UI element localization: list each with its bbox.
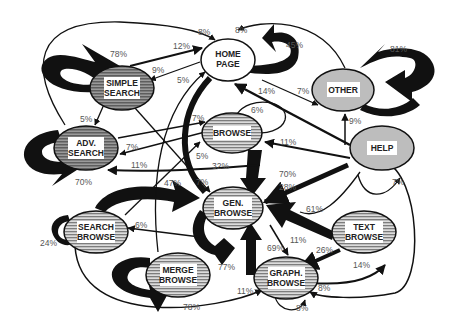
node-merge-browse[interactable]: MERGE BROWSE — [146, 253, 210, 297]
edge-simple-search-to-home — [130, 48, 202, 66]
node-label: BROWSE — [213, 128, 252, 138]
node-adv-search[interactable]: ADV. SEARCH — [54, 126, 118, 170]
edge-label: 6% — [135, 220, 148, 230]
node-label: SEARCH — [78, 222, 114, 232]
edge-label: 24% — [40, 238, 57, 248]
node-label: SEARCH — [104, 88, 140, 98]
edge-search-browse-to-browse — [125, 142, 200, 215]
node-help[interactable]: HELP — [350, 126, 414, 170]
node-label: GRAPH. — [269, 268, 302, 278]
edge-help-to-gen-browse — [265, 165, 348, 202]
edge-label: 26% — [316, 245, 333, 255]
node-browse[interactable]: BROWSE — [202, 113, 262, 153]
edge-label: 7% — [297, 86, 310, 96]
node-label: OTHER — [328, 85, 358, 95]
node-label: BROWSE — [267, 278, 306, 288]
node-other[interactable]: OTHER — [312, 69, 374, 111]
edge-label: 5% — [80, 114, 93, 124]
edge-label: 11% — [131, 160, 148, 170]
node-label: GEN. — [223, 198, 244, 208]
edge-label: 78% — [183, 302, 200, 312]
node-simple-search[interactable]: SIMPLE SEARCH — [90, 66, 154, 110]
edge-label: 8% — [235, 25, 248, 35]
edge-label: 5% — [196, 151, 209, 161]
edge-label: 61% — [306, 204, 323, 214]
edge-label: 9% — [152, 65, 165, 75]
edge-label: 8% — [296, 303, 309, 313]
node-text-browse[interactable]: TEXT BROWSE — [332, 211, 396, 253]
edge-label: 14% — [353, 260, 370, 270]
edge-label: 47% — [164, 178, 181, 188]
edge-label: 8% — [318, 283, 331, 293]
edge-label: 9% — [349, 116, 362, 126]
edge-label: 5% — [177, 75, 190, 85]
edge-label: 28% — [279, 182, 296, 192]
node-label: TEXT — [353, 222, 376, 232]
edge-label: 7% — [126, 142, 139, 152]
node-label: SEARCH — [68, 148, 104, 158]
edge-label: 7% — [196, 177, 209, 187]
node-label: ADV. — [76, 138, 96, 148]
edge-label: 11% — [280, 137, 297, 147]
node-search-browse[interactable]: SEARCH BROWSE — [64, 211, 128, 253]
edge-label: 32% — [212, 161, 229, 171]
node-label: SIMPLE — [106, 78, 138, 88]
edge-label: 78% — [110, 49, 127, 59]
node-label: BROWSE — [345, 232, 384, 242]
node-label: HELP — [371, 143, 394, 153]
edge-label: 70% — [75, 177, 92, 187]
edge-label: 70% — [279, 169, 296, 179]
state-transition-diagram: SIMPLE SEARCH HOME PAGE OTHER ADV. SEARC… — [0, 0, 453, 333]
node-home-page[interactable]: HOME PAGE — [201, 39, 255, 81]
edge-label: 8% — [198, 27, 211, 37]
edge-label: 14% — [258, 86, 275, 96]
edge-label: 7% — [392, 177, 405, 187]
node-label: MERGE — [162, 265, 194, 275]
node-label: BROWSE — [159, 275, 198, 285]
edge-label: 77% — [218, 262, 235, 272]
node-label: BROWSE — [214, 208, 253, 218]
edge-label: 45% — [286, 40, 303, 50]
edge-label: 81% — [390, 44, 407, 54]
edge-label: 6% — [251, 105, 264, 115]
node-gen-browse[interactable]: GEN. BROWSE — [203, 187, 263, 229]
node-label: HOME — [215, 49, 241, 59]
edge-label: 69% — [267, 243, 284, 253]
edge-label: 11% — [237, 286, 254, 296]
edge-label: 7% — [192, 113, 205, 123]
edge-label: 12% — [173, 41, 190, 51]
edge-label: 11% — [290, 235, 307, 245]
node-label: PAGE — [216, 59, 240, 69]
edge-graph-to-text — [312, 265, 385, 284]
node-graph-browse[interactable]: GRAPH. BROWSE — [254, 257, 318, 299]
node-label: BROWSE — [77, 232, 116, 242]
edge-search-browse-to-gen-browse — [95, 180, 200, 212]
edge-help-to-browse — [265, 142, 350, 158]
